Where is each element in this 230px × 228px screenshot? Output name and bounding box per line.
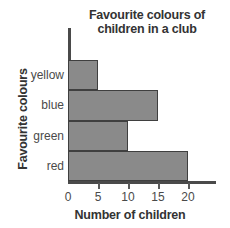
category-label-blue: blue <box>0 99 64 111</box>
category-label-yellow: yellow <box>0 69 64 81</box>
x-tick-label-15: 15 <box>143 190 173 204</box>
bar-red <box>68 151 188 181</box>
bar-blue <box>68 90 158 120</box>
x-tick-label-10: 10 <box>113 190 143 204</box>
category-label-red: red <box>0 160 64 172</box>
chart-title-line-2: children in a club <box>68 22 226 36</box>
category-label-green: green <box>0 130 64 142</box>
x-tick-20 <box>188 183 190 189</box>
x-tick-10 <box>128 183 130 189</box>
bar-chart: Favourite colours of children in a club … <box>0 0 230 228</box>
x-tick-15 <box>158 183 160 189</box>
chart-title: Favourite colours of children in a club <box>68 8 226 36</box>
bar-yellow <box>68 60 98 90</box>
x-tick-5 <box>98 183 100 189</box>
bar-green <box>68 121 128 151</box>
bar-row <box>68 151 188 181</box>
x-tick-label-0: 0 <box>53 190 83 204</box>
bar-row <box>68 121 128 151</box>
x-axis-title: Number of children <box>40 208 220 222</box>
chart-title-line-1: Favourite colours of <box>68 8 226 22</box>
bar-row <box>68 90 158 120</box>
x-tick-label-20: 20 <box>173 190 203 204</box>
bar-row <box>68 60 98 90</box>
x-tick-label-5: 5 <box>83 190 113 204</box>
